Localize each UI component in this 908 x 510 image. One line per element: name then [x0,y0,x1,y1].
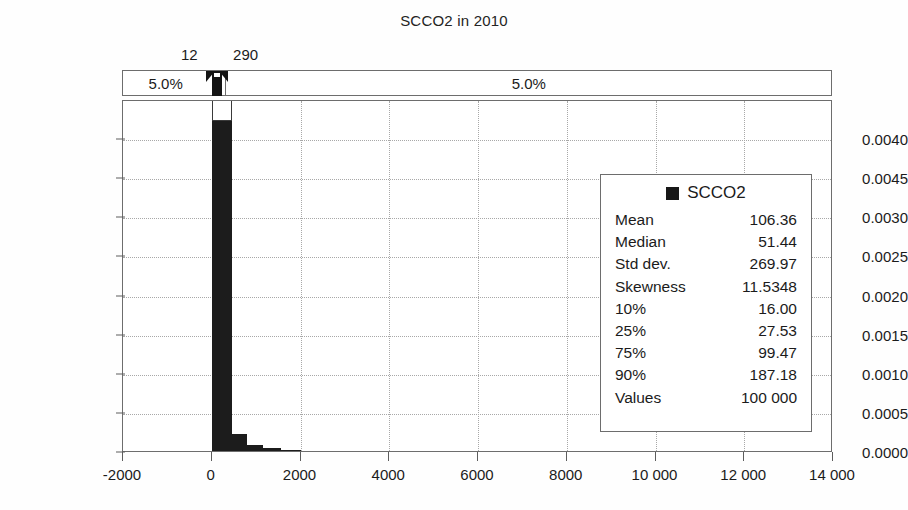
legend-swatch-icon [666,187,679,200]
legend-stat-row: Mean106.36 [615,209,797,231]
percentile-marker [206,71,228,96]
legend-stat-value: 11.5348 [742,276,797,298]
x-axis-tick-label: 0 [207,466,215,483]
legend-stat-row: Skewness11.5348 [615,276,797,298]
y-axis-tick-label: 0.0015 [804,326,908,343]
x-axis-tick-mark [300,452,301,461]
x-axis-tick-label: 6000 [460,466,493,483]
x-axis-tick-label: 14 000 [809,466,855,483]
y-axis-tick-label: 0.0045 [804,170,908,187]
x-axis-tick-mark [388,452,389,461]
legend-stat-key: Values [615,387,661,409]
x-axis-tick-label: 2000 [283,466,316,483]
legend-stat-value: 106.36 [750,209,797,231]
x-axis-tick-label: 8000 [549,466,582,483]
y-axis-tick-label: 0.0025 [804,248,908,265]
x-axis-tick-label: 4000 [372,466,405,483]
legend-stat-key: Skewness [615,276,686,298]
gridline-vertical [567,101,568,451]
legend-box: SCCO2 Mean106.36Median51.44Std dev.269.9… [600,174,812,432]
y-axis-tick-label: 0.0040 [804,131,908,148]
y-axis-tick-label: 0.0005 [804,404,908,421]
y-axis-tick-mark [116,452,125,453]
x-axis-tick-label: -2000 [103,466,141,483]
legend-stat-key: Std dev. [615,253,671,275]
legend-series-label: SCCO2 [687,183,746,203]
legend-stat-row: 10%16.00 [615,298,797,320]
y-axis-tick-mark [116,139,125,140]
marker-notch [214,73,220,77]
histogram-bar [212,119,232,451]
percentile-lower-bound: 12 [181,46,198,63]
legend-stat-value: 27.53 [758,320,797,342]
legend-stat-key: 10% [615,298,646,320]
legend-stat-value: 187.18 [750,364,797,386]
gridline-vertical [301,101,302,451]
percentile-right-label: 5.0% [512,75,546,92]
histogram-bar [232,434,248,451]
y-axis-tick-label: 0.0030 [804,209,908,226]
x-axis-tick-mark [566,452,567,461]
x-axis-tick-mark [122,452,123,461]
chart-title: SCCO2 in 2010 [0,12,908,29]
legend-stat-key: Median [615,231,666,253]
y-axis-tick-label: 0.0020 [804,287,908,304]
x-axis-tick-label: 12 000 [720,466,766,483]
y-axis-tick-mark [116,178,125,179]
gridline-vertical [389,101,390,451]
x-axis-tick-mark [832,452,833,461]
legend-stat-value: 16.00 [758,298,797,320]
gridline-vertical [478,101,479,451]
y-axis-tick-label: 0.0010 [804,365,908,382]
legend-stat-value: 269.97 [750,253,797,275]
legend-stat-row: Std dev.269.97 [615,253,797,275]
legend-stat-row: Median51.44 [615,231,797,253]
legend-stat-row: 90%187.18 [615,364,797,386]
y-axis-tick-mark [116,412,125,413]
chart-canvas: SCCO2 in 2010 5.0% 5.0% 12 290 0.00400.0… [0,0,908,510]
y-axis-tick-mark [116,256,125,257]
x-axis-tick-label: 10 000 [632,466,678,483]
y-axis-tick-mark [116,334,125,335]
x-axis-tick-mark [655,452,656,461]
legend-stat-row: 25%27.53 [615,320,797,342]
histogram-bar [247,445,263,451]
legend-header: SCCO2 [615,183,797,203]
legend-stat-value: 99.47 [758,342,797,364]
histogram-bar-cap [212,100,232,121]
histogram-bar [281,450,301,451]
percentile-band: 5.0% 5.0% [122,70,832,96]
legend-stat-key: Mean [615,209,654,231]
x-axis-tick-mark [477,452,478,461]
x-axis-tick-mark [743,452,744,461]
y-axis-tick-mark [116,373,125,374]
legend-stat-row: Values100 000 [615,387,797,409]
legend-stat-value: 100 000 [741,387,797,409]
percentile-upper-bound: 290 [233,46,258,63]
y-axis-tick-label: 0.0000 [804,444,908,461]
legend-stat-row: 75%99.47 [615,342,797,364]
percentile-left-label: 5.0% [149,75,183,92]
legend-stat-key: 90% [615,364,646,386]
y-axis-tick-mark [116,295,125,296]
legend-stat-key: 75% [615,342,646,364]
histogram-bar [263,448,281,451]
y-axis-tick-mark [116,217,125,218]
x-axis-tick-mark [211,452,212,461]
legend-stat-key: 25% [615,320,646,342]
legend-stat-value: 51.44 [758,231,797,253]
legend-stats-list: Mean106.36Median51.44Std dev.269.97Skewn… [615,209,797,409]
